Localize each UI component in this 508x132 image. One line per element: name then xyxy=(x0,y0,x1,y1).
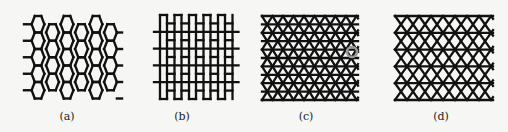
panel-label-c: (c) xyxy=(286,110,326,123)
panel-d: (d) xyxy=(381,0,508,132)
honeycomb-lattice xyxy=(0,0,127,105)
panel-label-a: (a) xyxy=(47,110,87,123)
triangular-lattice xyxy=(254,0,381,105)
kagome-lattice xyxy=(381,0,508,105)
panel-a: (a) xyxy=(0,0,127,132)
panel-b: (b) xyxy=(127,0,254,132)
panel-label-d: (d) xyxy=(421,110,461,123)
panel-label-b: (b) xyxy=(162,110,202,123)
brick-wall-lattice xyxy=(127,0,254,105)
panel-c: (c) xyxy=(254,0,381,132)
